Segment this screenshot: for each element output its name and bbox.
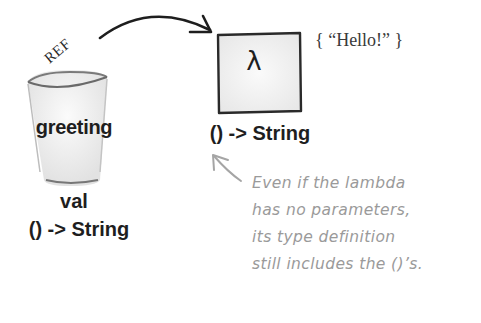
annotation-arrow [213,155,241,181]
variable-kind: val [24,190,124,213]
annotation-line: has no parameters, [252,197,481,224]
annotation-line: its type definition [252,224,481,251]
annotation-line: still includes the ()’s. [252,251,481,278]
reference-arrow [100,16,211,38]
variable-name: greeting [24,116,124,139]
annotation-line: Even if the lambda [252,170,481,197]
lambda-body: { “Hello!” } [315,30,403,51]
variable-type: () -> String [14,218,144,241]
lambda-icon: λ [220,46,288,76]
lambda-type: () -> String [200,122,320,145]
annotation-note: Even if the lambda has no parameters, it… [252,170,481,278]
